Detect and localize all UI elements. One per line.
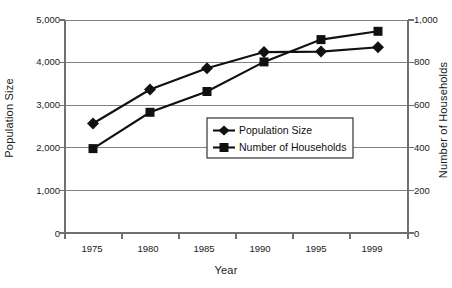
legend-label-number-of-households: Number of Households	[239, 141, 346, 153]
chart-figure: Population Size Number of Households Yea…	[0, 0, 452, 288]
data-point-households-1975	[89, 144, 98, 153]
square-marker-icon	[220, 143, 229, 152]
gridlines	[65, 20, 408, 190]
data-point-households-1990	[260, 57, 269, 66]
plot-area: Population Size Number of Households	[0, 0, 452, 288]
y-axis-right-ticks	[408, 20, 414, 233]
chart-legend[interactable]: Population Size Number of Households	[207, 118, 353, 158]
data-point-households-1985	[203, 87, 212, 96]
series-population-size	[87, 41, 384, 129]
data-point-population-1999	[372, 41, 384, 53]
data-point-population-1975	[87, 118, 99, 130]
legend-label-population-size: Population Size	[239, 124, 312, 136]
data-point-population-1985	[201, 62, 213, 74]
data-point-households-1980	[146, 108, 155, 117]
data-point-households-1999	[374, 27, 383, 36]
series-line-population	[93, 47, 378, 123]
data-point-households-1995	[317, 35, 326, 44]
data-point-population-1980	[144, 84, 156, 96]
series-markers-population	[87, 41, 384, 129]
data-point-population-1990	[258, 46, 270, 58]
y-axis-left-ticks	[59, 20, 65, 233]
x-axis-ticks	[65, 233, 408, 239]
data-point-population-1995	[315, 46, 327, 58]
